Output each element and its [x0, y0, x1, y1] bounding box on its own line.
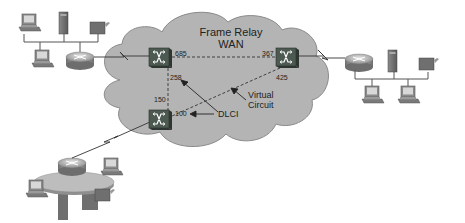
- workstation-icon: [19, 14, 41, 31]
- vc-line2: Circuit: [248, 100, 274, 110]
- serial-link-bottom: [72, 122, 150, 158]
- workstation-icon: [398, 86, 420, 103]
- virtual-circuit-annotation: Virtual Circuit: [248, 90, 274, 110]
- printer-icon: [90, 22, 110, 34]
- router-icon: [66, 52, 94, 70]
- workstation-icon: [362, 86, 384, 103]
- dlci-label-100: 100: [175, 110, 187, 117]
- site-right: [345, 50, 439, 103]
- printer-icon: [419, 58, 439, 70]
- dlci-label-258: 258: [170, 74, 182, 81]
- dlci-label-150: 150: [154, 96, 166, 103]
- dlci-label-425: 425: [276, 74, 288, 81]
- server-icon: [388, 50, 397, 72]
- dlci-label-367: 367: [262, 50, 274, 57]
- router-icon: [345, 54, 373, 72]
- frame-relay-switch-top-left: [149, 48, 172, 68]
- vc-line1: Virtual: [248, 90, 274, 100]
- cloud-title-line2: WAN: [196, 38, 266, 50]
- workstation-icon: [101, 158, 123, 175]
- site-bottom-left: [26, 158, 123, 220]
- workstation-icon: [32, 50, 54, 67]
- printer-icon: [95, 189, 115, 201]
- dlci-label-685: 685: [175, 50, 187, 57]
- router-icon: [58, 158, 86, 176]
- dlci-annotation: DLCI: [218, 109, 239, 119]
- server-icon: [59, 12, 68, 34]
- cloud-title: Frame Relay WAN: [196, 26, 266, 50]
- site-left: [19, 12, 110, 70]
- frame-relay-switch-top-right: [276, 48, 299, 68]
- frame-relay-switch-bottom: [149, 110, 172, 130]
- cloud-title-line1: Frame Relay: [196, 26, 266, 38]
